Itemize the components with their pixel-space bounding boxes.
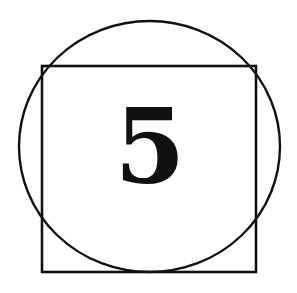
- figure-canvas: 5: [0, 0, 297, 293]
- number-label: 5: [115, 87, 186, 207]
- circle-square-diagram: 5: [0, 0, 297, 293]
